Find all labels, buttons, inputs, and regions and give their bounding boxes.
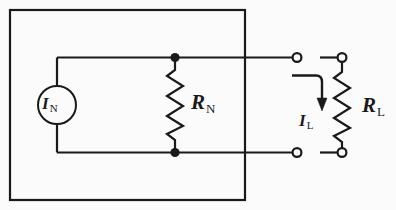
current-source-symbol-text: I (42, 94, 49, 113)
open-terminal-bottom-right (338, 148, 347, 157)
norton-resistor-symbol-text: R (191, 90, 205, 114)
load-resistor-subscript-text: L (376, 104, 385, 119)
load-resistor-symbol-text: R (362, 93, 376, 117)
load-resistor-label: RL (362, 95, 385, 118)
open-terminal-bottom-left (293, 148, 302, 157)
open-terminal-top-right (338, 53, 347, 62)
norton-resistor-label: RN (191, 92, 215, 115)
norton-resistor-subscript-text: N (205, 101, 215, 116)
current-source-label: IN (42, 95, 58, 114)
load-current-arrowhead (317, 98, 327, 111)
load-resistor-symbol (334, 62, 350, 148)
load-current-symbol-text: I (299, 111, 306, 130)
norton-resistor-symbol (167, 58, 183, 152)
junction-dot-bottom (170, 148, 179, 157)
load-current-label: IL (299, 112, 313, 131)
junction-dot-top (170, 53, 179, 62)
load-current-arrow (292, 76, 322, 101)
circuit-diagram: IN RN IL RL (0, 0, 396, 210)
load-current-subscript-text: L (306, 119, 314, 131)
current-source-subscript-text: N (49, 102, 58, 114)
open-terminal-top-left (293, 53, 302, 62)
